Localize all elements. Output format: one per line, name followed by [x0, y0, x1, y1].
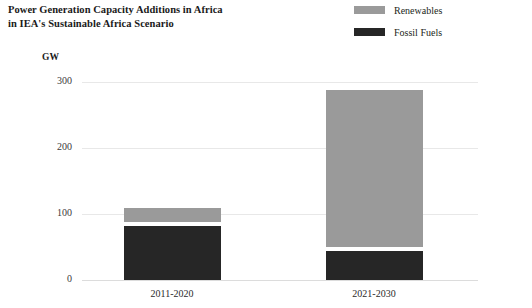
y-axis-tick-300: 300	[12, 75, 72, 86]
x-axis-label-2: 2021-2030	[314, 288, 434, 299]
bar-group-1[interactable]	[124, 0, 221, 280]
bar-segment-renewables[interactable]	[124, 208, 221, 222]
y-axis-tick-0: 0	[12, 273, 72, 284]
gridline-0	[82, 280, 478, 281]
bar-segment-renewables[interactable]	[326, 90, 423, 247]
bar-segment-fossil-fuels[interactable]	[124, 226, 221, 280]
bar-segment-fossil-fuels[interactable]	[326, 251, 423, 280]
plot-area: 01002003002011-20202021-2030	[0, 0, 532, 308]
bar-group-2[interactable]	[326, 0, 423, 280]
y-axis-tick-100: 100	[12, 207, 72, 218]
y-axis-tick-200: 200	[12, 141, 72, 152]
x-axis-label-1: 2011-2020	[112, 288, 232, 299]
